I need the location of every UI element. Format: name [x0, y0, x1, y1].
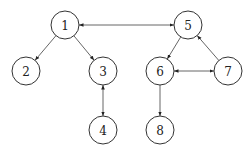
node-label: 6 — [156, 65, 164, 79]
node-label: 3 — [99, 65, 107, 79]
node-5: 5 — [174, 11, 202, 39]
node-label: 1 — [61, 19, 69, 33]
edge-1-2-arrow — [35, 36, 56, 61]
node-4: 4 — [89, 116, 117, 144]
node-8: 8 — [146, 116, 174, 144]
node-7: 7 — [214, 57, 242, 85]
nodes-layer: 12345678 — [12, 11, 242, 144]
node-2: 2 — [12, 57, 40, 85]
node-label: 5 — [184, 19, 192, 33]
node-label: 4 — [99, 124, 107, 138]
node-label: 7 — [224, 65, 232, 79]
node-6: 6 — [146, 57, 174, 85]
node-1: 1 — [51, 11, 79, 39]
edge-1-3-arrow — [74, 36, 94, 60]
edge-5-6-arrow — [167, 37, 180, 59]
graph-diagram: 12345678 — [0, 0, 248, 154]
edge-7-5-arrow — [197, 36, 219, 61]
node-3: 3 — [89, 57, 117, 85]
node-label: 8 — [156, 124, 164, 138]
node-label: 2 — [22, 65, 30, 79]
